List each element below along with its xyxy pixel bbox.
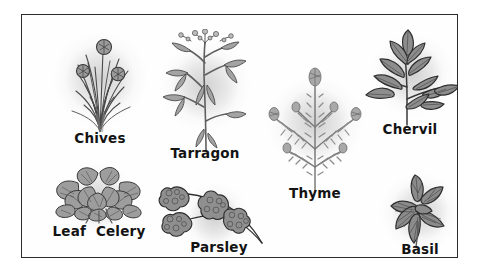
herb-item-chervil[interactable]: Chervil [352,27,458,147]
leaf-celery-plant-icon [34,163,164,225]
herb-label-chervil: Chervil [352,123,458,137]
herb-label-chives: Chives [40,132,160,146]
herb-label-parsley: Parsley [158,241,280,255]
herb-label-tarragon: Tarragon [144,147,266,161]
herb-item-leaf-celery[interactable]: Leaf Celery [34,163,164,255]
herb-item-parsley[interactable]: Parsley [158,183,280,258]
basil-plant-icon [362,173,458,249]
herb-chart-poster: Chives [21,14,458,258]
parsley-plant-icon [158,183,280,245]
tarragon-plant-icon [144,29,266,153]
herb-label-basil: Basil [362,243,458,257]
herb-item-chives[interactable]: Chives [40,27,160,155]
herb-label-leaf-celery: Leaf Celery [34,225,164,239]
herb-item-tarragon[interactable]: Tarragon [144,29,266,171]
chervil-plant-icon [352,27,458,127]
herb-item-basil[interactable]: Basil [362,173,458,258]
chives-plant-icon [40,27,160,137]
